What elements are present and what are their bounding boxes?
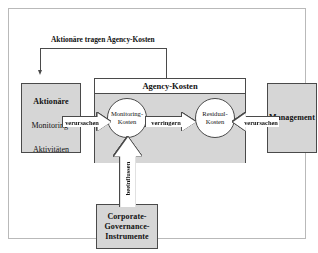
monitoring-costs-line2: Kosten (118, 118, 137, 126)
connector-left-segment (40, 48, 41, 71)
agency-costs-title: Agency-Kosten (95, 79, 245, 94)
arrow-management-causes-residual: verursachen (233, 113, 279, 131)
figure-frame: Aktionäre tragen Agency-Kosten Aktionäre… (8, 8, 306, 239)
arrow-cgi-influences-monitoring: beeinflussen (114, 137, 142, 207)
arrow-shareholders-cause-monitoring: verursachen (63, 113, 111, 131)
node-monitoring-costs: Monitoring- Kosten (107, 98, 147, 138)
arrow-left-cause-label: verursachen (63, 113, 111, 131)
arrow-influence-label: beeinflussen (125, 161, 132, 194)
agency-costs-diagram: Aktionäre tragen Agency-Kosten Aktionäre… (0, 0, 318, 253)
arrow-influence: beeinflussen (114, 137, 142, 207)
connector-top-segment (40, 48, 167, 49)
residual-costs-line1: Residual- (202, 110, 227, 118)
cgi-line3: Instrumente (105, 232, 148, 242)
entity-corporate-governance-instruments: Corporate- Governance- Instrumente (96, 204, 158, 249)
shareholders-title: Aktionäre (33, 97, 68, 107)
monitoring-costs-line1: Monitoring- (111, 110, 143, 118)
shareholders-subtitle-line2: Aktivitäten (33, 145, 69, 155)
node-residual-costs: Residual- Kosten (195, 98, 235, 138)
bears-costs-label: Aktionäre tragen Agency-Kosten (51, 35, 155, 44)
arrow-reduce-label: verringern (146, 113, 196, 131)
bears-costs-connector (40, 48, 167, 79)
arrow-monitoring-reduces-residual: verringern (146, 113, 196, 131)
cgi-line1: Corporate- (107, 212, 146, 222)
connector-arrowhead-icon (38, 70, 42, 75)
residual-costs-line2: Kosten (206, 118, 225, 126)
connector-right-segment (166, 48, 167, 79)
arrow-right-cause-label: verursachen (233, 113, 279, 131)
cgi-line2: Governance- (104, 222, 149, 232)
